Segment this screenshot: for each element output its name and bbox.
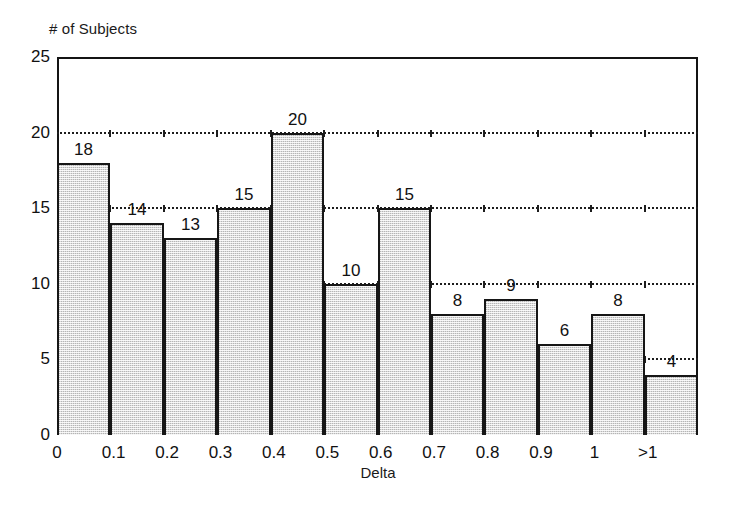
x-tick-label: 0.7 — [404, 443, 464, 462]
x-tick-label: >1 — [618, 443, 678, 462]
x-tick-label: 0.9 — [511, 443, 571, 462]
x-tick-label: 0.3 — [190, 443, 250, 462]
x-tick-label: 0.2 — [137, 443, 197, 462]
x-tick-label: 0.6 — [351, 443, 411, 462]
x-axis-tick-labels: 00.10.20.30.40.50.60.70.80.91>1 — [0, 0, 730, 505]
bar-chart: # of Subjects 0510152025 181413152010158… — [0, 0, 730, 505]
x-tick-label: 0.5 — [297, 443, 357, 462]
x-axis-title: Delta — [0, 464, 730, 481]
x-tick-label: 0.1 — [84, 443, 144, 462]
x-tick-label: 0.4 — [244, 443, 304, 462]
x-tick-label: 0.8 — [458, 443, 518, 462]
x-tick-label: 0 — [27, 443, 87, 462]
x-tick-label: 1 — [564, 443, 624, 462]
x-axis-title-text: Delta — [360, 464, 395, 481]
